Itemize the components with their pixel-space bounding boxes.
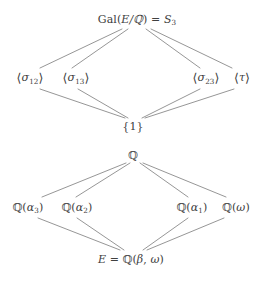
node-galois-group: Gal(E/ℚ) = S3 bbox=[98, 14, 176, 25]
close-paren: ) bbox=[245, 201, 249, 214]
rationals-symbol: ℚ( bbox=[13, 201, 27, 214]
edge-sigma23-trivial bbox=[142, 89, 200, 118]
angle-close-icon: ⟩ bbox=[84, 70, 89, 85]
node-splitting-field: E = ℚ(β, ω) bbox=[98, 254, 164, 265]
gal-equals: = bbox=[147, 13, 164, 26]
gal-prefix: Gal( bbox=[98, 13, 122, 26]
edge-sigma12-trivial bbox=[40, 89, 125, 118]
angle-close-icon: ⟩ bbox=[214, 70, 219, 85]
galois-correspondence-diagram: Gal(E/ℚ) = S3 ⟨σ12⟩ ⟨σ13⟩ ⟨σ23⟩ ⟨τ⟩ {1} … bbox=[0, 0, 264, 284]
generator-subscript: 12 bbox=[29, 76, 38, 85]
rationals-symbol: ℚ( bbox=[123, 253, 137, 266]
edge-tau-trivial bbox=[145, 89, 234, 118]
close-paren: ) bbox=[203, 201, 207, 214]
node-trivial-group: {1} bbox=[122, 121, 143, 132]
generator-symbol: σ bbox=[68, 71, 76, 84]
close-paren: ) bbox=[88, 201, 92, 214]
edge-alpha3-E bbox=[38, 218, 120, 250]
splitting-field-symbol: E bbox=[98, 253, 106, 266]
angle-close-icon: ⟩ bbox=[38, 70, 43, 85]
edge-q-omega bbox=[143, 163, 226, 197]
root-symbol: α bbox=[76, 201, 84, 214]
root-subscript: 2 bbox=[83, 206, 88, 215]
generator-subscript: 13 bbox=[75, 76, 84, 85]
generator-symbol: σ bbox=[198, 71, 206, 84]
edge-alpha1-E bbox=[143, 218, 188, 250]
node-q-alpha3: ℚ(α3) bbox=[13, 202, 44, 213]
root-symbol: α bbox=[27, 201, 35, 214]
edge-sigma13-trivial bbox=[78, 89, 128, 118]
equals-sign: = bbox=[106, 253, 123, 266]
close-paren: ) bbox=[160, 253, 164, 266]
symmetric-group-symbol: S bbox=[164, 13, 172, 26]
root-symbol: α bbox=[191, 201, 199, 214]
node-sigma12: ⟨σ12⟩ bbox=[17, 72, 44, 85]
rationals-symbol: ℚ( bbox=[177, 201, 191, 214]
node-sigma23: ⟨σ23⟩ bbox=[193, 72, 220, 85]
symmetric-group-degree: 3 bbox=[172, 18, 177, 27]
node-sigma13: ⟨σ13⟩ bbox=[63, 72, 90, 85]
node-q-omega: ℚ(ω) bbox=[222, 202, 250, 213]
omega-symbol: ω bbox=[236, 201, 245, 214]
edge-q-alpha1 bbox=[140, 163, 188, 197]
node-rationals: ℚ bbox=[128, 150, 138, 161]
rationals-symbol: ℚ( bbox=[62, 201, 76, 214]
edge-alpha2-E bbox=[77, 218, 124, 250]
rationals-symbol: ℚ( bbox=[222, 201, 236, 214]
generator-symbol: σ bbox=[22, 71, 30, 84]
node-tau: ⟨τ⟩ bbox=[234, 72, 250, 85]
lattice-edges bbox=[0, 0, 264, 284]
field-extension: E/ℚ bbox=[121, 13, 143, 26]
edge-omega-E bbox=[147, 218, 224, 250]
root-subscript: 3 bbox=[34, 206, 39, 215]
node-q-alpha1: ℚ(α1) bbox=[177, 202, 208, 213]
node-q-alpha2: ℚ(α2) bbox=[62, 202, 93, 213]
root-subscript: 1 bbox=[198, 206, 203, 215]
close-paren: ) bbox=[39, 201, 43, 214]
angle-close-icon: ⟩ bbox=[245, 70, 250, 85]
generator-subscript: 23 bbox=[205, 76, 214, 85]
